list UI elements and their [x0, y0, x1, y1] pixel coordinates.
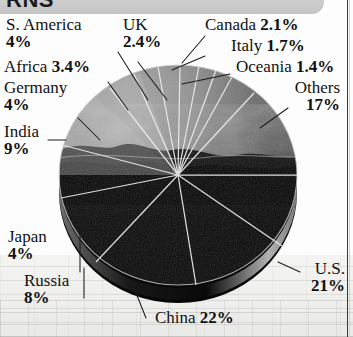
- label-others-value: 17%: [295, 96, 340, 113]
- label-africa-name: Africa: [4, 57, 47, 76]
- label-germany-value: 4%: [4, 96, 67, 113]
- label-italy-name: Italy: [231, 36, 262, 55]
- label-japan-name: Japan: [8, 227, 47, 246]
- label-germany-name: Germany: [4, 78, 67, 97]
- label-japan-value: 4%: [8, 245, 47, 262]
- label-india: India 9%: [4, 123, 39, 158]
- label-others: Others 17%: [295, 79, 340, 114]
- label-africa-value: 3.4%: [52, 57, 90, 76]
- label-uk-value: 2.4%: [123, 33, 161, 50]
- label-uk-name: UK: [123, 15, 148, 34]
- label-italy: Italy 1.7%: [231, 37, 305, 54]
- label-russia: Russia 8%: [24, 272, 69, 307]
- label-russia-name: Russia: [24, 271, 69, 290]
- label-africa: Africa 3.4%: [4, 58, 90, 75]
- pie-labels: S. America 4% UK 2.4% Canada 2.1% Italy …: [0, 0, 353, 337]
- label-china-value: 22%: [200, 308, 234, 327]
- label-us-name: U.S.: [315, 259, 345, 278]
- label-s-america-value: 4%: [6, 33, 82, 50]
- label-italy-value: 1.7%: [266, 36, 304, 55]
- label-s-america-name: S. America: [6, 15, 82, 34]
- label-canada: Canada 2.1%: [205, 16, 298, 33]
- chart-page: RNS S. America 4% UK 2.4% Canada 2.1% It…: [0, 0, 353, 337]
- label-s-america: S. America 4%: [6, 16, 82, 51]
- label-us-value: 21%: [311, 277, 345, 294]
- label-us: U.S. 21%: [311, 260, 345, 295]
- label-germany: Germany 4%: [4, 79, 67, 114]
- label-india-name: India: [4, 122, 39, 141]
- label-japan: Japan 4%: [8, 228, 47, 263]
- label-china: China 22%: [155, 309, 234, 326]
- label-india-value: 9%: [4, 140, 39, 157]
- label-oceania-name: Oceania: [236, 57, 292, 76]
- label-canada-name: Canada: [205, 15, 256, 34]
- label-others-name: Others: [295, 78, 340, 97]
- label-uk: UK 2.4%: [123, 16, 161, 51]
- label-china-name: China: [155, 308, 196, 327]
- label-oceania: Oceania 1.4%: [236, 58, 334, 75]
- label-oceania-value: 1.4%: [296, 57, 334, 76]
- label-russia-value: 8%: [24, 289, 69, 306]
- label-canada-value: 2.1%: [260, 15, 298, 34]
